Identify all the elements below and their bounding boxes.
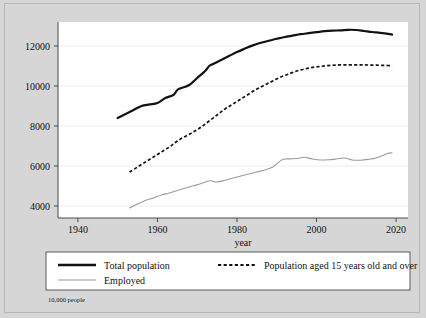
x-tick-label: 1940: [68, 224, 88, 235]
y-tick-label: 6000: [30, 161, 50, 172]
x-axis-ticks: 19401960198020002020: [68, 218, 406, 235]
x-axis-title: year: [234, 237, 252, 248]
x-tick-label: 1960: [147, 224, 167, 235]
unit-note: 10,000 people: [48, 296, 85, 303]
plot-area-background: [58, 22, 408, 218]
legend-box: [46, 252, 410, 290]
x-tick-label: 2000: [307, 224, 327, 235]
y-tick-label: 4000: [30, 201, 50, 212]
y-tick-label: 8000: [30, 121, 50, 132]
legend-label: Employed: [104, 275, 145, 286]
legend-label: Population aged 15 years old and over: [264, 260, 418, 271]
y-tick-label: 10000: [25, 81, 50, 92]
chart-svg: 4000600080001000012000 19401960198020002…: [0, 0, 426, 318]
y-axis-ticks: 4000600080001000012000: [25, 41, 58, 212]
x-tick-label: 1980: [227, 224, 247, 235]
legend-label: Total population: [104, 260, 170, 271]
y-tick-label: 12000: [25, 41, 50, 52]
x-tick-label: 2020: [386, 224, 406, 235]
population-line-chart: 4000600080001000012000 19401960198020002…: [0, 0, 426, 318]
